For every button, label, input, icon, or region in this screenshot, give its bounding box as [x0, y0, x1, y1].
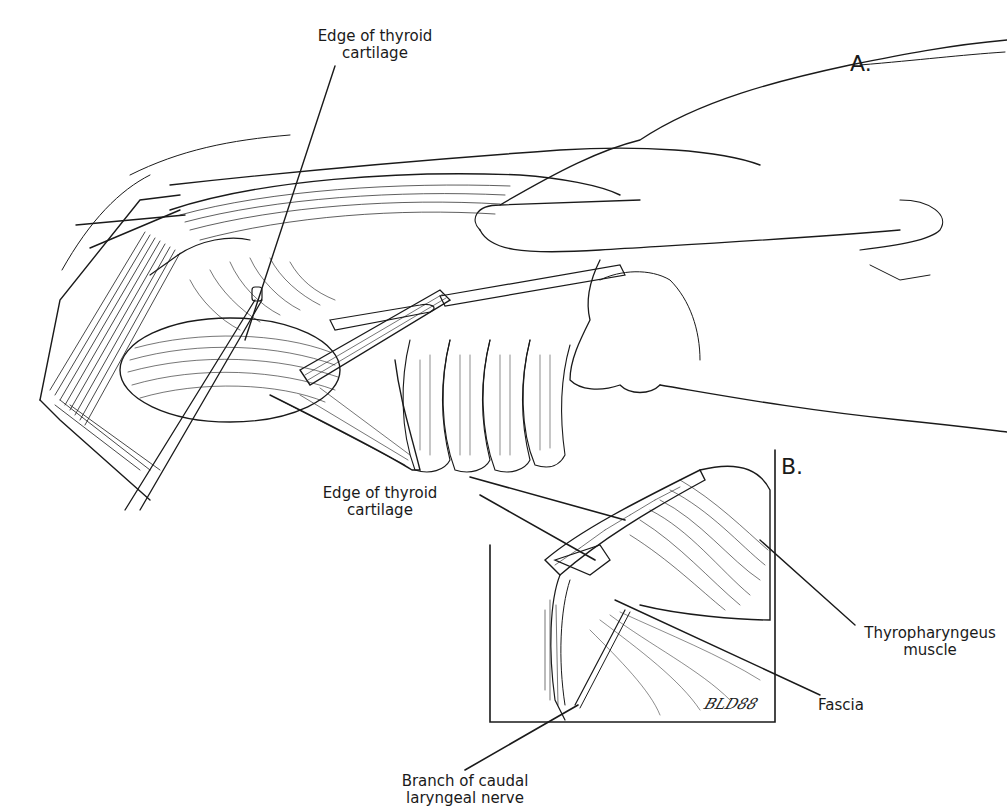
leader-nerve	[465, 705, 578, 770]
label-branch-caudal-laryngeal-nerve: Branch of caudal laryngeal nerve	[375, 773, 555, 807]
label-text: Edge of thyroid	[290, 485, 470, 502]
panel-b-drawing	[465, 450, 855, 770]
label-text: laryngeal nerve	[375, 790, 555, 807]
label-text: muscle	[855, 642, 1005, 659]
illustration-canvas	[0, 0, 1007, 810]
leader-b-edge-thyroid-1	[470, 477, 625, 520]
label-text: Edge of thyroid	[305, 28, 445, 45]
panel-b-frame	[490, 450, 775, 722]
panel-b-letter: B.	[781, 455, 803, 479]
leader-a-edge-thyroid	[245, 66, 335, 340]
label-text: Thyropharyngeus	[855, 625, 1005, 642]
label-text: cartilage	[305, 45, 445, 62]
panel-a-letter: A.	[850, 52, 872, 76]
panel-a-drawing	[40, 40, 1007, 510]
label-b-edge-of-thyroid-cartilage: Edge of thyroid cartilage	[290, 485, 470, 519]
label-text: cartilage	[290, 502, 470, 519]
leader-fascia	[615, 600, 820, 695]
label-a-edge-of-thyroid-cartilage: Edge of thyroid cartilage	[305, 28, 445, 62]
label-thyropharyngeus-muscle: Thyropharyngeus muscle	[855, 625, 1005, 659]
label-text: Branch of caudal	[375, 773, 555, 790]
leader-b-edge-thyroid-2	[480, 495, 595, 560]
artist-signature: BLD88	[702, 695, 761, 713]
label-fascia: Fascia	[818, 697, 864, 714]
